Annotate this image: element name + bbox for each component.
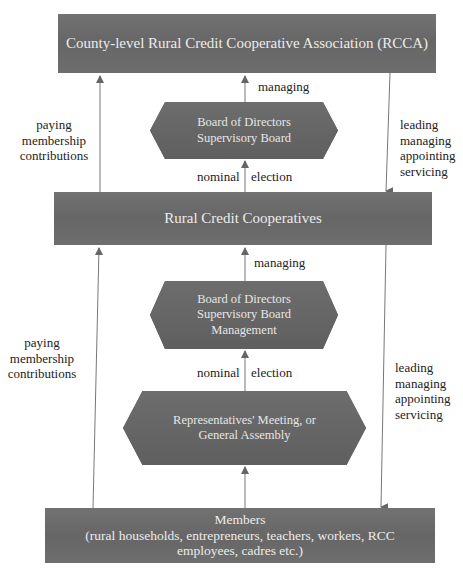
paying-lower-line-2: membership — [6, 351, 78, 367]
assembly-line-2: General Assembly — [199, 428, 291, 444]
label-paying-upper: paying membership contributions — [18, 117, 90, 164]
leading-lower-line-1: leading — [395, 360, 451, 376]
assembly-line-1: Representatives' Meeting, or — [173, 413, 316, 429]
election-lower-text: election — [251, 365, 292, 380]
arrow-rcc-to-members — [381, 245, 386, 507]
leading-lower-line-3: appointing — [395, 391, 451, 407]
paying-upper-line-3: contributions — [18, 148, 90, 164]
rcc-label: Rural Credit Cooperatives — [164, 210, 321, 227]
label-election-lower: election — [251, 365, 292, 381]
leading-upper-line-3: appointing — [400, 148, 456, 164]
rcca-label: County-level Rural Credit Cooperative As… — [66, 35, 428, 52]
election-upper-text: election — [251, 169, 292, 184]
paying-upper-line-2: membership — [18, 133, 90, 149]
leading-upper-line-1: leading — [400, 117, 456, 133]
members-line-3: employees, cadres etc.) — [177, 543, 303, 559]
managing-mid-text: managing — [254, 255, 305, 270]
paying-lower-line-3: contributions — [6, 366, 78, 382]
paying-upper-line-1: paying — [18, 117, 90, 133]
managing-top-text: managing — [258, 79, 309, 94]
board-upper-line-1: Board of Directors — [197, 115, 291, 131]
label-leading-upper: leading managing appointing servicing — [400, 117, 456, 179]
nominal-lower-text: nominal — [197, 365, 240, 380]
board-lower-line-3: Management — [211, 323, 276, 339]
arrow-members-to-rcc — [93, 248, 99, 508]
rcca-box: County-level Rural Credit Cooperative As… — [58, 14, 436, 73]
leading-lower-line-2: managing — [395, 376, 451, 392]
board-lower-hexagon: Board of Directors Supervisory Board Man… — [150, 281, 338, 349]
arrow-rcca-to-rcc — [386, 73, 390, 191]
members-box: Members (rural households, entrepreneurs… — [45, 508, 435, 563]
label-managing-top: managing — [258, 79, 309, 95]
board-upper-line-2: Supervisory Board — [197, 131, 291, 147]
leading-lower-line-4: servicing — [395, 407, 451, 423]
label-managing-mid: managing — [254, 255, 305, 271]
rcc-box: Rural Credit Cooperatives — [54, 192, 432, 245]
label-nominal-lower: nominal — [197, 365, 240, 381]
paying-lower-line-1: paying — [6, 335, 78, 351]
label-nominal-upper: nominal — [197, 169, 240, 185]
members-line-2: (rural households, entrepreneurs, teache… — [85, 528, 394, 544]
leading-upper-line-4: servicing — [400, 164, 456, 180]
members-title: Members — [215, 512, 266, 528]
board-lower-line-1: Board of Directors — [197, 292, 291, 308]
nominal-upper-text: nominal — [197, 169, 240, 184]
label-leading-lower: leading managing appointing servicing — [395, 360, 451, 422]
board-lower-line-2: Supervisory Board — [197, 307, 291, 323]
assembly-hexagon: Representatives' Meeting, or General Ass… — [123, 391, 366, 465]
board-upper-hexagon: Board of Directors Supervisory Board — [150, 102, 338, 159]
leading-upper-line-2: managing — [400, 133, 456, 149]
label-election-upper: election — [251, 169, 292, 185]
label-paying-lower: paying membership contributions — [6, 335, 78, 382]
